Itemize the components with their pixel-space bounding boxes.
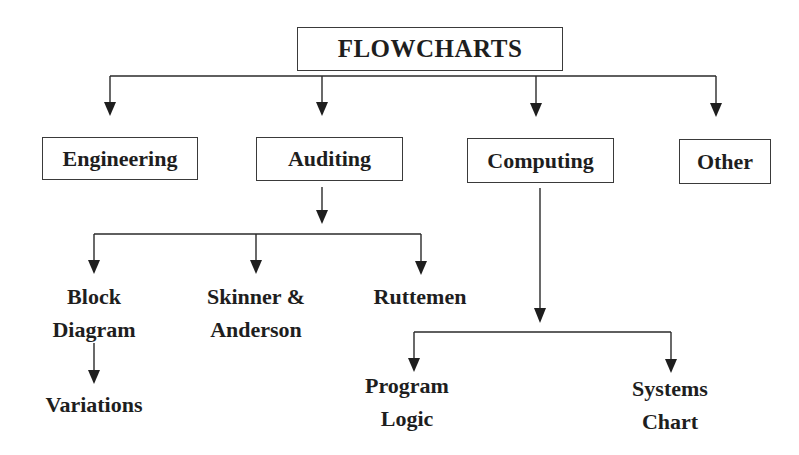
arrowhead-variations-icon [88, 370, 100, 384]
arrowhead-computing-stem-icon [534, 308, 546, 323]
node-variations-line-1: Variations [46, 388, 143, 421]
node-block-diagram-line-2: Diagram [52, 313, 135, 346]
arrowhead-computing-icon [530, 103, 542, 117]
root-node-flowcharts: FLOWCHARTS [297, 27, 563, 71]
node-block-diagram: Block Diagram [52, 280, 135, 346]
node-systems-chart: Systems Chart [632, 372, 708, 438]
node-program-logic-line-1: Program [365, 369, 449, 402]
node-computing: Computing [467, 138, 614, 183]
arrowhead-ruttemen-icon [415, 261, 427, 275]
arrowhead-auditing-icon [316, 102, 328, 116]
node-program-logic-line-2: Logic [365, 402, 449, 435]
node-skinner-anderson: Skinner & Anderson [207, 280, 305, 346]
flowchart-diagram: FLOWCHARTS Engineering Auditing Computin… [0, 0, 799, 455]
node-systems-chart-line-2: Chart [632, 405, 708, 438]
node-ruttemen: Ruttemen [374, 280, 467, 313]
node-engineering: Engineering [42, 137, 198, 180]
node-program-logic: Program Logic [365, 369, 449, 435]
arrowhead-other-icon [710, 103, 722, 117]
arrowhead-engineering-icon [104, 102, 116, 116]
arrowhead-auditing-stem-icon [316, 210, 328, 224]
node-auditing: Auditing [256, 137, 403, 181]
node-ruttemen-line-1: Ruttemen [374, 280, 467, 313]
node-skinner-anderson-line-2: Anderson [207, 313, 305, 346]
node-other: Other [679, 139, 771, 184]
node-skinner-anderson-line-1: Skinner & [207, 280, 305, 313]
node-block-diagram-line-1: Block [52, 280, 135, 313]
arrowhead-block-diagram-icon [88, 260, 100, 274]
arrowhead-skinner-anderson-icon [250, 260, 262, 274]
node-variations: Variations [46, 388, 143, 421]
arrowhead-systems-chart-icon [665, 359, 677, 373]
node-systems-chart-line-1: Systems [632, 372, 708, 405]
